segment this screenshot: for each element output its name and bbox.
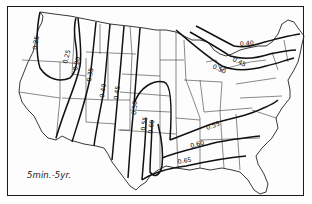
label-065-se: 0.65 bbox=[177, 156, 192, 165]
label-050-ne: 0.50 bbox=[212, 63, 228, 75]
label-045: 0.45 bbox=[112, 85, 121, 100]
label-050: 0.50 bbox=[130, 100, 138, 115]
label-025b: 0.25 bbox=[61, 49, 71, 64]
label-055-se: 0.55 bbox=[205, 120, 221, 131]
label-040: 0.40 bbox=[98, 83, 107, 98]
label-025a: 0.25 bbox=[31, 35, 40, 50]
map-caption: 5min.-5yr. bbox=[27, 170, 71, 180]
label-040-ne: 0.40 bbox=[239, 39, 254, 47]
label-060: 0.60 bbox=[146, 119, 155, 134]
label-035: 0.35 bbox=[85, 67, 94, 82]
